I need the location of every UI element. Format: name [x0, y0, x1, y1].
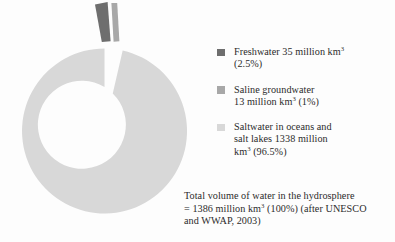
legend-label-freshwater: Freshwater 35 million km3(2.5%)	[234, 46, 394, 71]
caption-line-2a: = 1386 million km	[184, 203, 261, 214]
legend: Freshwater 35 million km3(2.5%) Saline g…	[216, 46, 394, 171]
legend-label-saline-volume: 13 million km	[234, 96, 292, 107]
legend-label-saline-percent: (1%)	[296, 96, 319, 107]
figure-caption: Total volume of water in the hydrosphere…	[184, 190, 395, 228]
legend-swatch-freshwater	[217, 49, 225, 57]
legend-item-saline-groundwater: Saline groundwater13 million km3 (1%)	[216, 84, 394, 109]
donut-slice-saltwater	[22, 49, 187, 214]
legend-swatch-saltwater	[217, 124, 225, 132]
legend-label-saline-main: Saline groundwater	[234, 84, 314, 95]
caption-line-3: and WWAP, 2003)	[184, 215, 261, 226]
legend-item-saltwater: Saltwater in oceans andsalt lakes 1338 m…	[216, 121, 394, 158]
legend-label-freshwater-percent: (2.5%)	[234, 58, 262, 69]
legend-label-saltwater-line2: salt lakes 1338 million	[234, 133, 328, 144]
donut-slice-freshwater	[95, 2, 111, 42]
legend-label-saltwater-main: Saltwater in oceans and	[234, 121, 332, 132]
legend-label-saline-groundwater: Saline groundwater13 million km3 (1%)	[234, 84, 394, 109]
legend-label-saltwater-percent: (96.5%)	[251, 146, 287, 157]
legend-label-saltwater: Saltwater in oceans andsalt lakes 1338 m…	[234, 121, 394, 158]
legend-label-saltwater-units: km	[234, 146, 247, 157]
superscript-cube-freshwater: 3	[341, 45, 344, 52]
legend-item-freshwater: Freshwater 35 million km3(2.5%)	[216, 46, 394, 71]
legend-label-freshwater-main: Freshwater 35 million km	[234, 46, 341, 57]
caption-line-2b: (100%) (after UNESCO	[264, 203, 366, 214]
figure-canvas: Freshwater 35 million km3(2.5%) Saline g…	[0, 0, 395, 242]
donut-chart-svg	[0, 0, 200, 242]
donut-chart	[0, 0, 200, 242]
donut-slice-saline-groundwater	[111, 3, 119, 42]
legend-swatch-saline-groundwater	[217, 86, 225, 94]
caption-line-1: Total volume of water in the hydrosphere	[184, 190, 354, 201]
